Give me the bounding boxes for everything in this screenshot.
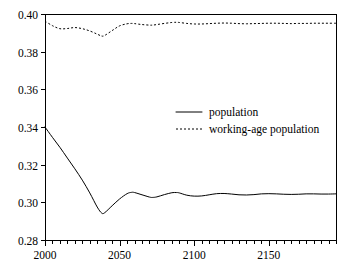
y-tick-label: 0.38	[18, 47, 38, 59]
x-tick-label: 2000	[34, 249, 57, 261]
y-axis-tick-marks	[41, 15, 45, 241]
y-axis-tick-labels: 0.280.300.320.340.360.380.40	[18, 9, 38, 247]
x-tick-label: 2150	[257, 249, 280, 261]
line-chart: 0.280.300.320.340.360.380.40 20002050210…	[0, 0, 346, 272]
data-series-layer	[45, 21, 336, 214]
legend-label: population	[209, 106, 258, 119]
x-axis-tick-marks	[46, 241, 337, 246]
chart-legend: populationworking-age population	[176, 106, 319, 136]
y-tick-label: 0.30	[18, 197, 38, 209]
legend-label: working-age population	[209, 123, 319, 136]
y-tick-label: 0.36	[18, 84, 38, 96]
y-tick-label: 0.32	[18, 160, 38, 172]
y-tick-label: 0.34	[18, 122, 38, 134]
x-tick-label: 2050	[108, 249, 131, 261]
y-tick-label: 0.40	[18, 9, 38, 21]
x-axis-tick-labels: 2000205021002150	[34, 249, 281, 261]
x-tick-label: 2100	[183, 249, 206, 261]
y-tick-label: 0.28	[18, 235, 38, 247]
chart-canvas: 0.280.300.320.340.360.380.40 20002050210…	[0, 0, 346, 272]
series-line-population	[45, 127, 336, 214]
series-line-working-age-population	[45, 21, 336, 36]
